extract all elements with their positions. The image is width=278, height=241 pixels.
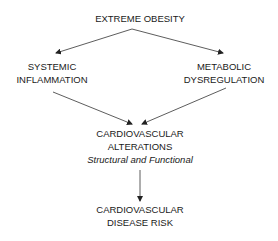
node-label-line2: DISEASE RISK	[85, 216, 195, 229]
node-label-line2: DYSREGULATION	[176, 73, 272, 86]
node-subtitle: Structural and Functional	[75, 153, 205, 166]
node-label-line1: CARDIOVASCULAR	[85, 203, 195, 216]
node-label-line1: SYSTEMIC	[10, 60, 94, 73]
node-cardiovascular-alterations: CARDIOVASCULAR ALTERATIONS Structural an…	[75, 127, 205, 166]
arrow-inflammation-to-alterations	[53, 92, 132, 124]
arrow-obesity-to-inflammation	[56, 29, 132, 53]
node-extreme-obesity: EXTREME OBESITY	[80, 12, 200, 25]
node-label-line2: INFLAMMATION	[10, 73, 94, 86]
node-systemic-inflammation: SYSTEMIC INFLAMMATION	[10, 60, 94, 86]
arrow-dysregulation-to-alterations	[142, 88, 226, 124]
node-label: EXTREME OBESITY	[80, 12, 200, 25]
node-label-line1: CARDIOVASCULAR	[75, 127, 205, 140]
node-label-line1: METABOLIC	[176, 60, 272, 73]
node-metabolic-dysregulation: METABOLIC DYSREGULATION	[176, 60, 272, 86]
arrow-obesity-to-dysregulation	[132, 29, 223, 53]
node-label-line2: ALTERATIONS	[75, 140, 205, 153]
node-cardiovascular-disease-risk: CARDIOVASCULAR DISEASE RISK	[85, 203, 195, 229]
